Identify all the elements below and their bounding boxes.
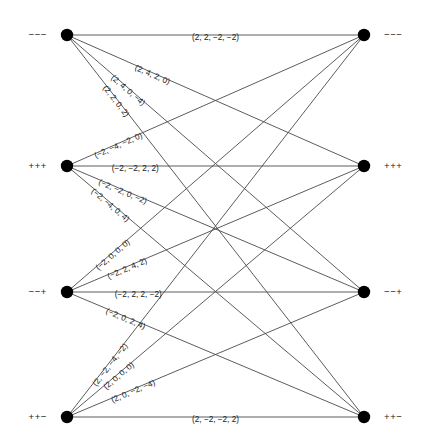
node-sign-label-right-2: +++ (384, 160, 402, 171)
node-sign-label-left-2: +++ (29, 160, 47, 171)
graph-node[interactable] (61, 411, 73, 423)
edge-label: (2, 2, −2, −2) (192, 33, 239, 42)
node-sign-label-left-4: ++− (29, 411, 47, 422)
edge-label: (−2, −4, −2, 0) (93, 131, 144, 160)
graph-node[interactable] (358, 286, 370, 298)
graph-node[interactable] (358, 29, 370, 41)
edge-label: (2, −2, −2, 2) (192, 415, 239, 424)
node-sign-label-right-4: ++− (384, 411, 402, 422)
node-sign-label-right-1: −−− (384, 29, 402, 40)
graph-node[interactable] (358, 411, 370, 423)
edge-label: (−2, 0, 2, 4) (104, 307, 147, 332)
edge-label: (−2, −2, 2, 2) (112, 164, 159, 173)
edge-label: (−2, 2, 2, −2) (115, 290, 162, 299)
graph-node[interactable] (61, 160, 73, 172)
node-sign-label-left-3: −−+ (29, 286, 47, 297)
node-sign-label-left-1: −−− (29, 29, 47, 40)
node-sign-label-right-3: −−+ (384, 286, 402, 297)
edge-label: (2, 4, 2, 0) (133, 63, 171, 86)
bipartite-graph-figure: (2, 2, −2, −2)(2, 4, 2, 0)(2, 4, 0, −4)(… (0, 0, 422, 446)
graph-node[interactable] (358, 160, 370, 172)
graph-node[interactable] (61, 29, 73, 41)
graph-node[interactable] (61, 286, 73, 298)
graph-canvas: (2, 2, −2, −2)(2, 4, 2, 0)(2, 4, 0, −4)(… (0, 0, 422, 446)
